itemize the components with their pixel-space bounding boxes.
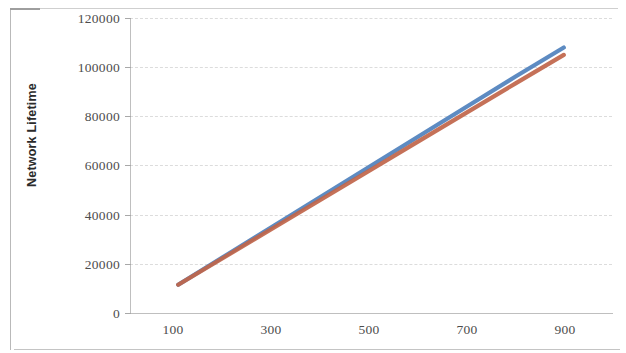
x-tick-label-700: 700 [432,322,502,338]
y-tick-label-80000: 80000 [48,109,120,125]
series-plot [0,0,626,353]
line-chart: 120000 100000 80000 60000 40000 20000 0 … [0,0,626,353]
gridline-100000 [130,67,612,68]
series-line-2 [178,55,564,285]
y-tick-label-40000: 40000 [48,208,120,224]
y-tick-label-60000: 60000 [48,158,120,174]
y-tick-label-20000: 20000 [48,257,120,273]
x-tick-label-900: 900 [530,322,600,338]
y-tick-label-100000: 100000 [48,60,120,76]
y-tick-label-120000: 120000 [48,11,120,27]
y-tick-mark-40000 [125,215,131,216]
y-tick-mark-80000 [125,116,131,117]
gridline-120000 [130,18,612,19]
y-tick-mark-20000 [125,264,131,265]
gridline-80000 [130,116,612,117]
y-tick-mark-60000 [125,165,131,166]
x-tick-label-300: 300 [236,322,306,338]
gridline-20000 [130,264,612,265]
chart-screenshot: 120000 100000 80000 60000 40000 20000 0 … [0,0,626,353]
x-tick-label-100: 100 [138,322,208,338]
gridline-40000 [130,215,612,216]
series-line-1 [178,48,564,285]
x-tick-label-500: 500 [334,322,404,338]
y-tick-mark-100000 [125,67,131,68]
y-axis-line [130,18,131,314]
y-axis-title: Network Lifetime [25,65,39,205]
x-axis-line [130,313,613,314]
gridline-60000 [130,165,612,166]
y-tick-mark-120000 [125,18,131,19]
y-tick-label-0: 0 [48,306,120,322]
y-tick-mark-0 [125,313,131,314]
